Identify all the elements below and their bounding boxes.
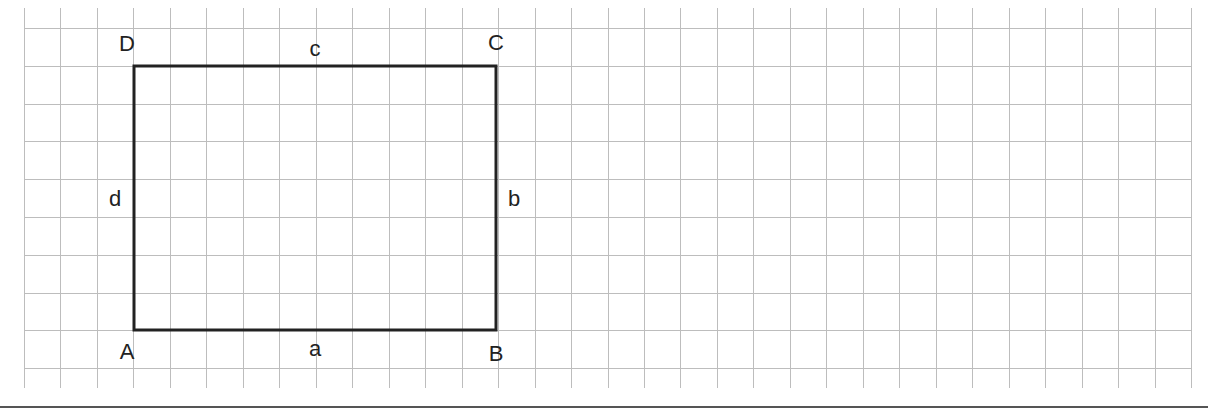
vertex-label-b: B [489, 343, 504, 365]
rectangle-abcd [134, 66, 496, 330]
side-label-b: b [508, 188, 520, 210]
grid-diagram [0, 0, 1208, 413]
bottom-separator [0, 406, 1208, 408]
vertex-label-a: A [120, 341, 135, 363]
vertex-label-c: C [488, 32, 504, 54]
side-label-c: c [310, 38, 321, 60]
side-label-a: a [309, 338, 321, 360]
vertex-label-d: D [119, 33, 135, 55]
side-label-d: d [109, 188, 121, 210]
